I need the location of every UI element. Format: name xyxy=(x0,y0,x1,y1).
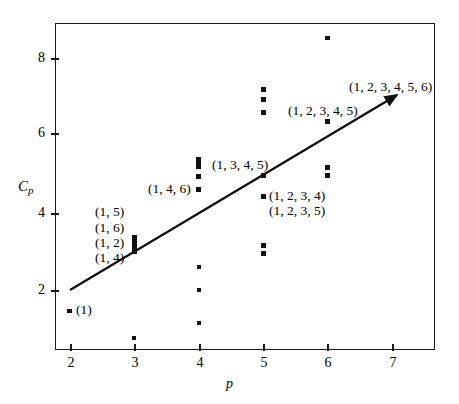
data-point xyxy=(261,110,266,115)
data-point xyxy=(325,36,330,40)
x-ticklabel-4: 4 xyxy=(185,355,215,371)
y-axis-label-base: C xyxy=(18,178,28,194)
x-axis-label: p xyxy=(0,376,459,392)
data-point xyxy=(261,97,266,102)
annotation-1-2-3-4: (1, 2, 3, 4) xyxy=(269,189,325,204)
y-ticklabel-4: 4 xyxy=(23,205,45,221)
data-point xyxy=(261,173,266,178)
y-axis-label-subscript: p xyxy=(28,184,34,196)
y-ticklabel-2: 2 xyxy=(23,282,45,298)
data-point xyxy=(261,87,266,92)
data-point-stack xyxy=(196,157,201,169)
annotation-1-5: (1, 5) xyxy=(95,205,124,220)
data-point xyxy=(261,251,266,256)
x-tick-6 xyxy=(327,344,329,351)
y-tick-4 xyxy=(51,213,59,215)
data-point xyxy=(196,174,201,179)
x-tick-7 xyxy=(392,344,394,351)
y-tick-6 xyxy=(51,133,59,135)
x-tick-3 xyxy=(134,344,136,351)
y-ticklabel-8: 8 xyxy=(23,50,45,66)
cp-plot-figure: 8 6 4 2 2 3 4 5 6 7 p Cp xyxy=(0,0,459,404)
x-ticklabel-5: 5 xyxy=(249,355,279,371)
annotation-1: (1) xyxy=(76,303,92,318)
data-point xyxy=(196,187,201,192)
x-ticklabel-3: 3 xyxy=(120,355,150,371)
annotation-1-2-3-5: (1, 2, 3, 5) xyxy=(269,204,325,219)
x-tick-4 xyxy=(199,344,201,351)
x-tick-5 xyxy=(263,344,265,351)
data-point xyxy=(325,119,330,124)
annotation-1-3-4-5: (1, 3, 4, 5) xyxy=(212,158,268,173)
plot-area-frame xyxy=(55,23,435,350)
data-point xyxy=(197,288,201,292)
annotation-1-2-3-4-5-6: (1, 2, 3, 4, 5, 6) xyxy=(349,80,432,95)
data-point-stack xyxy=(132,235,137,254)
annotation-1-4: (1, 4) xyxy=(95,251,124,266)
data-point xyxy=(132,336,136,340)
y-tick-2 xyxy=(51,290,59,292)
annotation-1-2-3-4-5: (1, 2, 3, 4, 5) xyxy=(288,104,358,119)
x-ticklabel-7: 7 xyxy=(378,355,408,371)
annotation-1-4-6: (1, 4, 6) xyxy=(148,182,191,197)
data-point xyxy=(67,309,72,313)
y-ticklabel-6: 6 xyxy=(23,125,45,141)
y-axis-label: Cp xyxy=(18,178,34,196)
data-point xyxy=(325,173,330,178)
data-point xyxy=(325,165,330,170)
annotation-1-2: (1, 2) xyxy=(95,236,124,251)
data-point xyxy=(261,194,266,199)
data-point xyxy=(197,321,201,325)
x-ticklabel-6: 6 xyxy=(313,355,343,371)
data-point xyxy=(197,265,201,269)
data-point xyxy=(261,243,266,248)
x-ticklabel-2: 2 xyxy=(56,355,86,371)
annotation-1-6: (1, 6) xyxy=(95,221,124,236)
y-tick-8 xyxy=(51,58,59,60)
x-tick-2 xyxy=(70,344,72,351)
